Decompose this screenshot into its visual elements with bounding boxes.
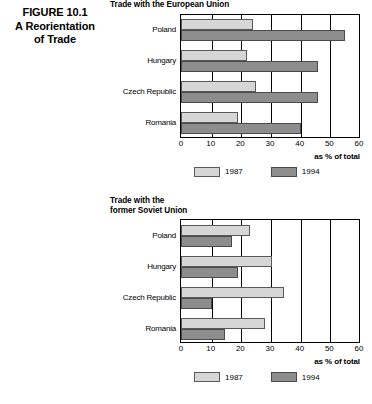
legend-swatch-icon (271, 167, 297, 177)
category-label: Czech Republic (123, 292, 176, 301)
bar-poland-1994 (181, 30, 345, 41)
legend: 1987 1994 (180, 372, 372, 382)
bar-hungary-1994 (181, 267, 238, 278)
chart-former-soviet-union: Trade with the former Soviet Union Polan… (110, 196, 372, 382)
legend-item-1994: 1994 (271, 372, 320, 382)
x-tick-label: 0 (179, 139, 183, 148)
x-tick-label: 40 (295, 344, 304, 353)
figure-caption: FIGURE 10.1 A Reorientation of Trade (2, 6, 108, 47)
chart-european-union: Trade with the European Union PolandHung… (110, 0, 372, 177)
x-axis: 0102030405060 (180, 343, 360, 356)
category-axis: PolandHungaryCzech RepublicRomania (110, 14, 180, 138)
axis-note: as % of total (180, 152, 360, 161)
bar-hungary-1987 (181, 50, 247, 61)
bar-czech-republic-1994 (181, 92, 318, 103)
category-label: Romania (145, 118, 176, 127)
chart-title: Trade with the former Soviet Union (110, 196, 372, 215)
bar-poland-1987 (181, 225, 250, 236)
x-tick-label: 40 (295, 139, 304, 148)
legend-item-1994: 1994 (271, 167, 320, 177)
legend-label: 1987 (225, 167, 243, 176)
x-tick-label: 60 (355, 344, 364, 353)
bar-romania-1994 (181, 123, 301, 134)
gridline (271, 220, 272, 342)
bar-romania-1987 (181, 318, 265, 329)
x-tick-label: 10 (206, 139, 215, 148)
legend-item-1987: 1987 (194, 167, 243, 177)
gridline (330, 220, 331, 342)
category-label: Poland (152, 230, 176, 239)
legend-label: 1994 (302, 167, 320, 176)
category-label: Hungary (147, 261, 176, 270)
x-tick-label: 50 (325, 139, 334, 148)
legend-swatch-icon (271, 372, 297, 382)
x-tick-label: 20 (236, 344, 245, 353)
bar-romania-1994 (181, 329, 225, 340)
x-tick-label: 30 (266, 344, 275, 353)
x-tick-label: 60 (355, 139, 364, 148)
category-label: Poland (152, 25, 176, 34)
plot-area (180, 219, 360, 343)
category-axis: PolandHungaryCzech RepublicRomania (110, 219, 180, 343)
bar-poland-1987 (181, 19, 253, 30)
legend-item-1987: 1987 (194, 372, 243, 382)
x-axis: 0102030405060 (180, 138, 360, 151)
x-tick-label: 20 (236, 139, 245, 148)
bar-hungary-1987 (181, 256, 272, 267)
category-label: Romania (145, 323, 176, 332)
bar-czech-republic-1987 (181, 287, 284, 298)
x-tick-label: 30 (266, 139, 275, 148)
bar-romania-1987 (181, 112, 238, 123)
legend: 1987 1994 (180, 167, 372, 177)
legend-label: 1994 (302, 373, 320, 382)
bar-czech-republic-1994 (181, 298, 212, 309)
x-tick-label: 0 (179, 344, 183, 353)
bar-czech-republic-1987 (181, 81, 256, 92)
gridline (301, 220, 302, 342)
bar-hungary-1994 (181, 61, 318, 72)
legend-swatch-icon (194, 372, 220, 382)
axis-note: as % of total (180, 357, 360, 366)
legend-swatch-icon (194, 167, 220, 177)
legend-label: 1987 (225, 373, 243, 382)
chart-title: Trade with the European Union (110, 0, 372, 10)
x-tick-label: 10 (206, 344, 215, 353)
plot-area (180, 14, 360, 138)
bar-poland-1994 (181, 236, 232, 247)
category-label: Hungary (147, 56, 176, 65)
x-tick-label: 50 (325, 344, 334, 353)
category-label: Czech Republic (123, 87, 176, 96)
